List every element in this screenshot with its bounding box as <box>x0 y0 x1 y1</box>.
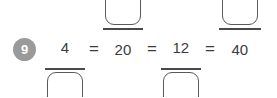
fraction-4-numerator-answer-box[interactable] <box>222 0 258 25</box>
fraction-1-numerator-value: 4 <box>61 40 69 55</box>
fraction-3: 12 <box>161 29 201 98</box>
fraction-2-numerator <box>103 0 143 27</box>
problem-number-badge: 9 <box>13 38 36 61</box>
equals-sign-2: = <box>147 9 157 88</box>
equals-sign-3: = <box>205 9 215 88</box>
worksheet-problem: 9 4 = 20 = 12 <box>0 0 277 97</box>
fraction-3-bar <box>161 68 201 70</box>
fraction-1-bar <box>45 68 85 70</box>
fraction-2-denominator: 20 <box>103 31 143 69</box>
fraction-3-denominator <box>161 71 201 98</box>
fraction-1-denominator <box>45 71 85 98</box>
fraction-2-denominator-value: 20 <box>115 42 132 57</box>
fraction-1-denominator-answer-box[interactable] <box>47 72 83 97</box>
equals-sign-1: = <box>89 9 99 88</box>
fraction-1: 4 <box>45 29 85 98</box>
fraction-2-bar <box>103 28 143 30</box>
fraction-1-numerator: 4 <box>45 29 85 67</box>
fraction-4-denominator: 40 <box>219 31 261 69</box>
fraction-3-numerator: 12 <box>161 29 201 67</box>
fraction-3-numerator-value: 12 <box>173 40 190 55</box>
fraction-4: 40 <box>219 0 261 69</box>
fraction-2: 20 <box>103 0 143 69</box>
fraction-2-numerator-answer-box[interactable] <box>105 0 141 25</box>
fraction-4-denominator-value: 40 <box>231 42 248 57</box>
equivalent-fractions-equation: 4 = 20 = 12 <box>45 0 277 97</box>
fraction-4-bar <box>219 28 261 30</box>
fraction-4-numerator <box>219 0 261 27</box>
fraction-3-denominator-answer-box[interactable] <box>163 72 199 97</box>
